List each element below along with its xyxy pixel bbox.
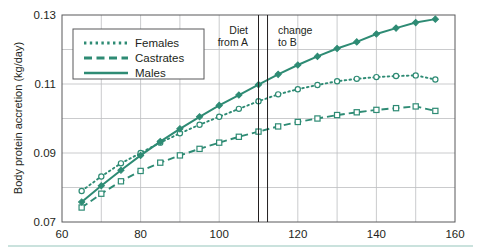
y-tick-0.07: 0.07 bbox=[34, 216, 56, 228]
data-point bbox=[197, 146, 202, 151]
data-point bbox=[413, 73, 418, 78]
x-tick-60: 60 bbox=[56, 228, 69, 240]
data-point bbox=[118, 179, 123, 184]
data-point bbox=[374, 107, 379, 112]
diet-from-a-line1: Diet bbox=[229, 24, 248, 36]
legend-label-females: Females bbox=[135, 37, 179, 49]
data-point bbox=[393, 73, 398, 78]
data-point bbox=[295, 119, 300, 124]
chart-figure: 6080100120140160 0.070.090.110.13 Body p… bbox=[0, 0, 481, 252]
data-point bbox=[433, 77, 438, 82]
data-point bbox=[79, 188, 84, 193]
data-point bbox=[177, 153, 182, 158]
data-point bbox=[217, 114, 222, 119]
data-point bbox=[276, 92, 281, 97]
data-point bbox=[118, 161, 123, 166]
change-to-b-line2: to B bbox=[278, 36, 297, 48]
x-tick-100: 100 bbox=[210, 228, 229, 240]
data-point bbox=[295, 87, 300, 92]
data-point bbox=[315, 116, 320, 121]
legend-label-males: Males bbox=[135, 67, 166, 79]
x-tick-140: 140 bbox=[367, 228, 386, 240]
x-tick-80: 80 bbox=[134, 228, 147, 240]
y-tick-0.09: 0.09 bbox=[34, 147, 56, 159]
data-point bbox=[276, 124, 281, 129]
data-point bbox=[138, 168, 143, 173]
data-point bbox=[217, 140, 222, 145]
data-point bbox=[433, 108, 438, 113]
data-point bbox=[236, 134, 241, 139]
data-point bbox=[99, 191, 104, 196]
legend-label-castrates: Castrates bbox=[135, 52, 184, 64]
change-to-b-line1: change bbox=[278, 24, 313, 36]
data-point bbox=[197, 122, 202, 127]
y-tick-0.11: 0.11 bbox=[34, 78, 56, 90]
data-point bbox=[335, 79, 340, 84]
diet-from-a-line2: from A bbox=[218, 36, 248, 48]
data-point bbox=[315, 82, 320, 87]
y-axis-title: Body protein accretion (kg/day) bbox=[12, 42, 24, 194]
data-point bbox=[354, 76, 359, 81]
data-point bbox=[99, 174, 104, 179]
data-point bbox=[374, 75, 379, 80]
data-point bbox=[413, 104, 418, 109]
data-point bbox=[393, 106, 398, 111]
data-point bbox=[158, 160, 163, 165]
legend: Females Castrates Males bbox=[73, 29, 204, 79]
x-tick-160: 160 bbox=[445, 228, 464, 240]
data-point bbox=[335, 112, 340, 117]
data-point bbox=[354, 110, 359, 115]
data-point bbox=[236, 106, 241, 111]
y-tick-0.13: 0.13 bbox=[34, 9, 56, 21]
x-tick-120: 120 bbox=[288, 228, 307, 240]
